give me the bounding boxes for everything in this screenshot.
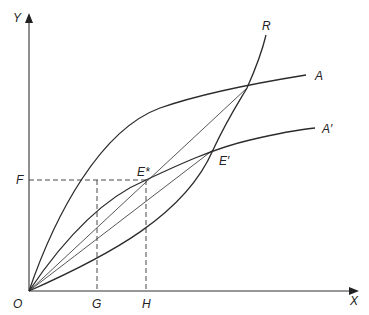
curve-r-label: R <box>262 19 271 33</box>
e-prime-label: E′ <box>219 154 230 168</box>
g-label: G <box>92 297 101 311</box>
f-label: F <box>16 173 24 187</box>
curve-a-prime <box>29 128 315 291</box>
y-axis-arrow-icon <box>25 13 33 23</box>
curve-a-label: A <box>314 69 323 83</box>
h-label: H <box>142 297 151 311</box>
y-axis-label: Y <box>13 11 22 25</box>
origin-label: O <box>13 297 22 311</box>
economics-diagram: Y X O R A A′ E* E′ F G H <box>0 0 369 315</box>
ray-to-e-prime <box>29 150 213 291</box>
x-axis-label: X <box>349 294 359 308</box>
e-star-label: E* <box>137 165 150 179</box>
curve-r <box>29 35 266 291</box>
curve-a-prime-label: A′ <box>321 122 333 136</box>
